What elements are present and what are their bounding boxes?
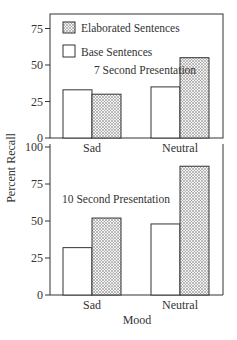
y-tick-label: 25 — [31, 251, 43, 265]
y-tick-label: 75 — [31, 22, 43, 36]
bar-neutral-base-7s — [151, 87, 180, 138]
x-tick-label: Neutral — [162, 298, 199, 312]
legend-swatch-base — [63, 45, 75, 57]
y-axis-label: Percent Recall — [4, 133, 18, 203]
legend-label-base: Base Sentences — [81, 46, 153, 58]
x-tick-label: Sad — [83, 298, 101, 312]
y-tick-label: 0 — [37, 288, 43, 302]
y-tick-label: 75 — [31, 177, 43, 191]
legend-swatch-elaborated — [63, 22, 75, 33]
bar-neutral-base-10s — [151, 224, 180, 295]
bar-sad-base-10s — [63, 248, 92, 295]
bar-sad-elaborated-7s — [92, 94, 121, 138]
panel-title: 10 Second Presentation — [62, 193, 170, 205]
bar-sad-elaborated-10s — [92, 218, 121, 295]
y-tick-label: 25 — [31, 95, 43, 109]
bar-neutral-elaborated-10s — [180, 166, 209, 295]
x-tick-label: Sad — [83, 141, 101, 155]
legend-label-elaborated: Elaborated Sentences — [81, 22, 180, 34]
x-tick-label: Neutral — [162, 141, 199, 155]
y-tick-label: 100 — [25, 140, 43, 154]
y-tick-label: 50 — [31, 214, 43, 228]
y-tick-label: 50 — [31, 58, 43, 72]
bar-sad-base-7s — [63, 90, 92, 138]
x-axis-label: Mood — [123, 313, 152, 327]
panel-title: 7 Second Presentation — [94, 64, 196, 76]
chart: 0255075SadNeutral7 Second PresentationEl… — [0, 0, 237, 340]
